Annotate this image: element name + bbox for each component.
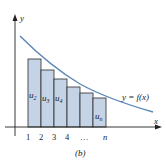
tick-1: 1 [26,132,30,142]
tick-4: 4 [65,132,70,142]
curve-label: y = f(x) [121,92,149,102]
y-axis-label: y [19,13,24,23]
y-axis-arrow-icon [13,14,18,21]
tick-labels: 1 2 3 4 … n [26,132,107,142]
figure-caption: (b) [75,148,86,158]
tick-n: n [103,132,107,142]
tick-ellipsis: … [80,132,89,142]
tick-3: 3 [52,132,56,142]
rect-u5 [67,87,80,127]
tick-2: 2 [39,132,43,142]
integral-test-diagram: y x y = f(x) 1 2 3 4 … n u2 u3 u4 un (b) [0,0,166,164]
rect-u6 [80,93,93,127]
x-axis-label: x [153,116,158,126]
